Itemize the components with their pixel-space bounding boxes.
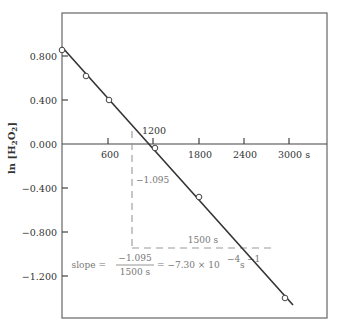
data-point — [282, 295, 288, 301]
svg-text:−1.095: −1.095 — [118, 253, 152, 263]
y-tick-label: 0.800 — [30, 51, 57, 62]
y-ticks — [62, 56, 68, 276]
data-point — [83, 73, 89, 79]
plot-frame — [62, 13, 327, 318]
y-tick-label: −0.800 — [22, 227, 57, 238]
x-tick-label: 600 — [101, 149, 119, 160]
chart: 0.800 0.400 0.000 −0.400 −0.800 −1.200 6… — [0, 0, 338, 329]
y-tick-label: −0.400 — [22, 183, 57, 194]
svg-text:1500 s: 1500 s — [120, 267, 151, 277]
y-tick-label: 0.000 — [30, 139, 57, 150]
svg-text:slope =: slope = — [72, 260, 106, 270]
svg-text:−4: −4 — [227, 254, 241, 264]
rise-label: −1.095 — [136, 175, 170, 185]
x-ticks — [108, 138, 289, 144]
x-tick-label: 1200 — [142, 125, 166, 136]
svg-text:= −7.30 × 10: = −7.30 × 10 — [157, 260, 220, 270]
x-tick-label: 3000 s — [278, 149, 310, 160]
data-point — [59, 47, 65, 53]
x-tick-label: 2400 — [233, 149, 257, 160]
y-axis-label: ln [H2O2] — [6, 122, 19, 174]
x-tick-label: 1800 — [188, 149, 212, 160]
run-label: 1500 s — [188, 235, 219, 245]
data-point — [196, 194, 202, 200]
y-tick-label: −1.200 — [22, 271, 57, 282]
data-point — [152, 145, 158, 151]
svg-text:s: s — [240, 260, 245, 270]
slope-formula: slope = −1.095 1500 s = −7.30 × 10 −4 s … — [72, 253, 261, 277]
y-tick-label: 0.400 — [30, 95, 57, 106]
data-point — [106, 97, 112, 103]
